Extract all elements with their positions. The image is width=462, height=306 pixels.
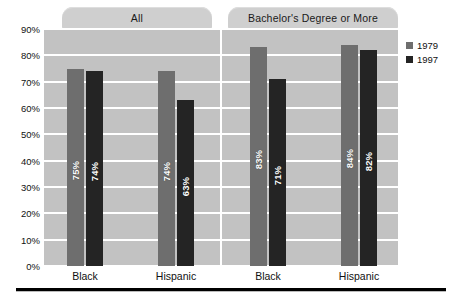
legend-item-1997: 1997	[406, 55, 458, 65]
plot-area: 75%74%74%63%83%71%84%82%	[44, 29, 398, 266]
legend: 1979 1997	[406, 41, 458, 68]
x-axis-label-all-hispanic: Hispanic	[136, 270, 216, 282]
x-axis-label-bach-hispanic: Hispanic	[319, 270, 399, 282]
bar-1979-hispanic-p1: 84%	[341, 45, 358, 266]
bar-value-label: 75%	[70, 161, 81, 180]
panel-tab-all: All	[62, 7, 212, 29]
panel-tab-bachelors-degree-or-more: Bachelor's Degree or More	[228, 7, 398, 29]
y-axis-tick-label: 0%	[2, 261, 40, 272]
legend-swatch-1997-icon	[406, 56, 413, 63]
bar-value-label: 74%	[161, 162, 172, 181]
legend-label-1997: 1997	[417, 55, 438, 65]
y-axis-tick-label: 40%	[2, 155, 40, 166]
y-axis-tick-label: 10%	[2, 234, 40, 245]
bar-value-label: 63%	[180, 176, 191, 195]
legend-label-1979: 1979	[417, 41, 438, 51]
bar-value-label: 71%	[272, 166, 283, 185]
bottom-rule	[16, 288, 446, 291]
gridline	[44, 28, 398, 30]
y-axis: 90%80%70%60%50%40%30%20%10%0%	[0, 29, 40, 266]
y-axis-tick-label: 50%	[2, 129, 40, 140]
bar-1979-black-p0: 75%	[67, 69, 84, 267]
panel-divider	[220, 29, 222, 266]
y-axis-tick-label: 60%	[2, 103, 40, 114]
bar-value-label: 84%	[344, 149, 355, 168]
legend-swatch-1979-icon	[406, 42, 413, 49]
y-axis-tick-label: 80%	[2, 50, 40, 61]
y-axis-tick-label: 30%	[2, 182, 40, 193]
x-axis-label-bach-black: Black	[228, 270, 308, 282]
y-axis-tick-label: 70%	[2, 76, 40, 87]
bar-value-label: 74%	[89, 162, 100, 181]
bar-value-label: 82%	[363, 151, 374, 170]
legend-item-1979: 1979	[406, 41, 458, 51]
bar-1997-black-p1: 71%	[269, 79, 286, 266]
bar-1997-hispanic-p0: 63%	[177, 100, 194, 266]
bar-1979-hispanic-p0: 74%	[158, 71, 175, 266]
y-axis-tick-label: 20%	[2, 208, 40, 219]
bar-1997-black-p0: 74%	[86, 71, 103, 266]
bar-1997-hispanic-p1: 82%	[360, 50, 377, 266]
bar-chart: All Bachelor's Degree or More 90%80%70%6…	[0, 0, 462, 306]
bar-1979-black-p1: 83%	[250, 47, 267, 266]
bar-value-label: 83%	[253, 150, 264, 169]
y-axis-tick-label: 90%	[2, 24, 40, 35]
x-axis-label-all-black: Black	[45, 270, 125, 282]
panel-tab-bachelors-label: Bachelor's Degree or More	[248, 12, 378, 24]
panel-tab-all-label: All	[131, 12, 143, 24]
